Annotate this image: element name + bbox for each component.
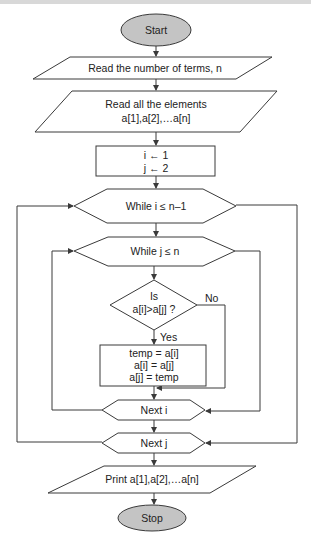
read-n-label: Read the number of terms, n bbox=[88, 62, 222, 74]
next-j-label: Next j bbox=[141, 437, 168, 449]
compare-line2: a[i]>a[j] ? bbox=[133, 303, 176, 315]
yes-label: Yes bbox=[160, 331, 177, 343]
start-label: Start bbox=[145, 24, 167, 36]
loop-j-hexagon: While j ≤ n bbox=[74, 237, 235, 266]
read-elements-line1: Read all the elements bbox=[105, 98, 207, 110]
swap-line2: a[i] = a[j] bbox=[134, 359, 174, 371]
arrow-loop-j-exit bbox=[206, 251, 260, 411]
next-j-hexagon: Next j bbox=[102, 433, 205, 453]
arrow-loop-i-exit bbox=[206, 205, 297, 443]
loop-j-label: While j ≤ n bbox=[131, 245, 180, 257]
init-process: i ← 1 j ← 2 bbox=[96, 146, 215, 176]
stop-label: Stop bbox=[141, 512, 163, 524]
swap-process: temp = a[i] a[i] = a[j] a[j] = temp bbox=[100, 345, 206, 386]
arrow-next-i-to-loop-j bbox=[52, 251, 102, 410]
arrow-next-j-to-loop-i bbox=[17, 206, 102, 442]
read-elements-line2: a[1],a[2],…a[n] bbox=[122, 112, 191, 124]
print-label: Print a[1],a[2],…a[n] bbox=[105, 473, 198, 485]
compare-line1: Is bbox=[150, 290, 158, 302]
compare-decision: Is a[i]>a[j] ? bbox=[110, 280, 197, 330]
swap-line1: temp = a[i] bbox=[129, 347, 178, 359]
flowchart: Start Read the number of terms, n Read a… bbox=[0, 0, 311, 537]
start-terminal: Start bbox=[121, 14, 191, 46]
init-line1: i ← 1 bbox=[144, 149, 169, 161]
no-label: No bbox=[205, 292, 219, 304]
swap-line3: a[j] = temp bbox=[129, 371, 178, 383]
loop-i-label: While i ≤ n–1 bbox=[126, 200, 187, 212]
print-io: Print a[1],a[2],…a[n] bbox=[48, 466, 256, 493]
stop-terminal: Stop bbox=[118, 505, 186, 531]
next-i-label: Next i bbox=[141, 404, 168, 416]
init-line2: j ← 2 bbox=[143, 162, 169, 174]
read-n-io: Read the number of terms, n bbox=[33, 57, 272, 79]
read-elements-io: Read all the elements a[1],a[2],…a[n] bbox=[35, 91, 277, 132]
next-i-hexagon: Next i bbox=[102, 400, 205, 420]
loop-i-hexagon: While i ≤ n–1 bbox=[74, 189, 236, 223]
